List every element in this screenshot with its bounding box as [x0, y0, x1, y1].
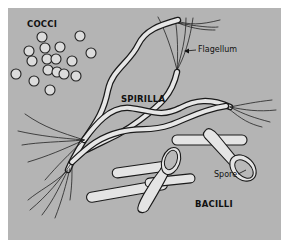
coccus — [67, 56, 77, 66]
bacteria-shapes-diagram: COCCI SPIRILLA BACILLI Flagellum Spore — [0, 0, 288, 247]
label-cocci: COCCI — [27, 19, 57, 29]
coccus — [55, 42, 65, 52]
coccus — [75, 31, 85, 41]
coccus — [40, 43, 50, 53]
label-flagellum: Flagellum — [198, 45, 237, 54]
label-spirilla: SPIRILLA — [121, 94, 165, 104]
coccus — [59, 69, 69, 79]
coccus — [37, 32, 47, 42]
coccus — [71, 71, 81, 81]
label-bacilli: BACILLI — [195, 199, 233, 209]
coccus — [27, 56, 37, 66]
label-spore: Spore — [214, 170, 237, 179]
coccus — [45, 85, 55, 95]
coccus — [11, 69, 21, 79]
coccus — [24, 46, 34, 56]
coccus — [43, 65, 53, 75]
coccus — [29, 76, 39, 86]
coccus — [51, 54, 61, 64]
coccus — [86, 48, 96, 58]
